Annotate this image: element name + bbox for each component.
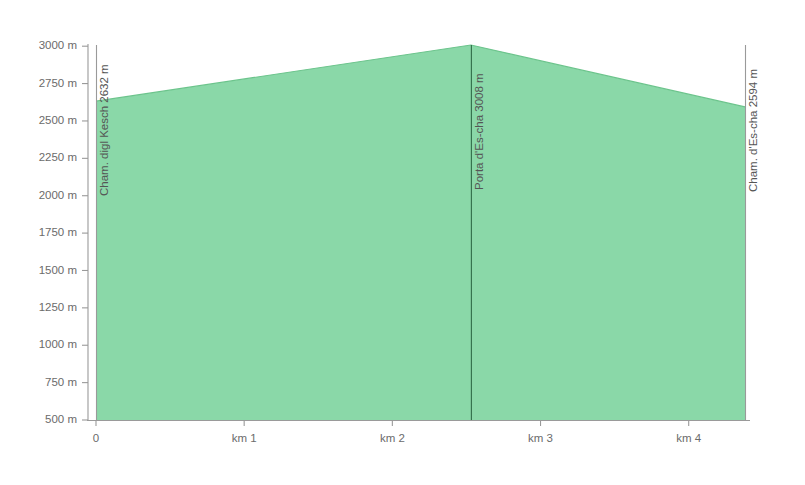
y-tick-label: 2250 m xyxy=(39,151,77,163)
elevation-profile-plot: 3000 m2750 m2500 m2250 m2000 m1750 m1500… xyxy=(0,0,805,485)
y-tick-label: 3000 m xyxy=(39,39,77,51)
y-tick-label: 1000 m xyxy=(39,338,77,350)
y-tick-label: 2000 m xyxy=(39,189,77,201)
y-tick-label: 1250 m xyxy=(39,301,77,313)
elevation-profile-chart: 3000 m2750 m2500 m2250 m2000 m1750 m1500… xyxy=(0,0,805,485)
waypoint-label-cham-des-cha: Cham. d'Es-cha 2594 m xyxy=(747,69,759,192)
y-tick-label: 750 m xyxy=(45,376,77,388)
y-tick-label: 2750 m xyxy=(39,77,77,89)
y-tick-label: 500 m xyxy=(45,413,77,425)
x-axis-ticks: 0km 1km 2km 3km 4 xyxy=(93,420,702,444)
y-tick-label: 2500 m xyxy=(39,114,77,126)
elevation-area-group xyxy=(96,45,745,420)
x-tick-label: km 2 xyxy=(380,432,405,444)
y-tick-label: 1750 m xyxy=(39,226,77,238)
x-tick-label: km 3 xyxy=(528,432,553,444)
x-tick-label: 0 xyxy=(93,432,99,444)
y-tick-label: 1500 m xyxy=(39,264,77,276)
elevation-area-fill xyxy=(96,45,745,420)
waypoint-label-cham-digl-kesch: Cham. digl Kesch 2632 m xyxy=(98,64,110,196)
y-axis-ticks: 3000 m2750 m2500 m2250 m2000 m1750 m1500… xyxy=(39,39,88,425)
x-tick-label: km 4 xyxy=(676,432,702,444)
waypoint-label-porta-des-cha: Porta d'Es-cha 3008 m xyxy=(473,73,485,190)
x-tick-label: km 1 xyxy=(232,432,257,444)
